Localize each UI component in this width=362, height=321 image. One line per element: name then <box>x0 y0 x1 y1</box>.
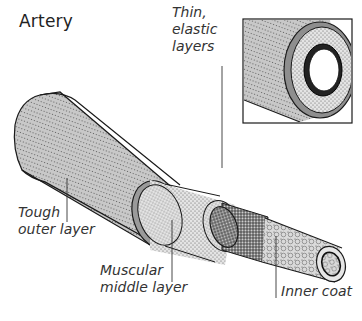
artery-illustration <box>0 0 362 321</box>
inner-coat-segment <box>262 218 350 285</box>
cross-section-inset <box>243 19 356 123</box>
